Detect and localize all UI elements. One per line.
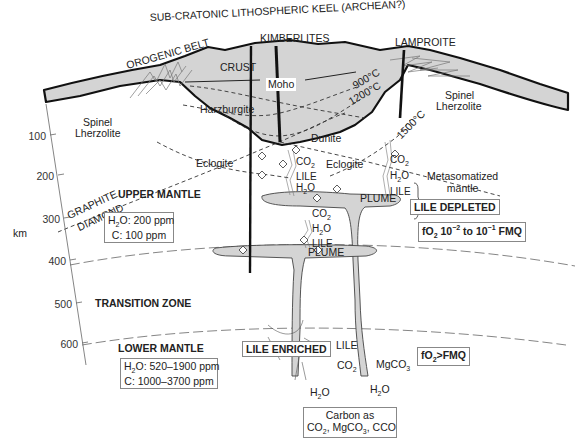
- fo2-upper-box: fO2 10−2 to 10−1 FMQ: [418, 222, 526, 242]
- depth-tick-200: 200: [26, 170, 54, 182]
- depth-axis-line: [46, 104, 86, 365]
- label-harzburgite: Harzburgite: [200, 104, 254, 115]
- depth-tick-100: 100: [18, 130, 46, 142]
- label-lower-mantle: LOWER MANTLE: [118, 343, 204, 354]
- label-crust: CRUST: [220, 62, 256, 73]
- depth-tick-400: 400: [38, 255, 66, 267]
- label-mgco3-lower: MgCO3: [376, 359, 410, 372]
- label-lherzolite-right: Lherzolite: [436, 101, 482, 112]
- label-h2o-right: H2O: [370, 384, 390, 397]
- label-kimberlites: KIMBERLITES: [260, 33, 329, 44]
- label-moho: Moho: [266, 78, 296, 91]
- label-co2-lower: CO2: [337, 360, 357, 373]
- depth-axis-unit: km: [13, 228, 27, 239]
- label-upper-mantle: UPPER MANTLE: [118, 189, 201, 200]
- fluid-stack-middle: CO2 H2O LILE: [312, 208, 333, 249]
- label-eclogite-right: Eclogite: [326, 159, 363, 170]
- carbon-forms-box: Carbon as CO2, MgCO3, CCO: [303, 407, 397, 438]
- lower-mantle-composition-box: H2O: 520–1900 ppm C: 1000–3700 ppm: [120, 358, 218, 389]
- label-dunite: Dunite: [311, 133, 341, 144]
- label-lile-lower: LILE: [336, 340, 358, 351]
- fluid-stack-left: CO2 LILE H2O: [296, 156, 317, 197]
- fo2-lower-box: fO2>FMQ: [417, 347, 470, 366]
- depth-tick-600: 600: [50, 338, 78, 350]
- kimberlite-dike-1: [250, 46, 251, 273]
- label-transition-zone: TRANSITION ZONE: [95, 298, 191, 309]
- label-plume-lower: PLUME: [308, 247, 344, 258]
- label-spinel-right: Spinel: [445, 90, 474, 101]
- label-lherzolite-left: Lherzolite: [75, 128, 121, 139]
- label-h2o-left: H2O: [310, 387, 330, 400]
- label-spinel-left: Spinel: [83, 117, 112, 128]
- depth-tick-500: 500: [44, 298, 72, 310]
- lile-enriched-box: LILE ENRICHED: [242, 341, 331, 357]
- lile-depleted-box: LILE DEPLETED: [410, 199, 500, 215]
- label-lamproite: LAMPROITE: [395, 37, 456, 48]
- lithosphere-keel: [44, 40, 568, 145]
- label-metasomatized-mantle: Metasomatized mantle: [427, 170, 498, 194]
- label-eclogite-left: Eclogite: [196, 158, 233, 169]
- upper-mantle-composition-box: H2O: 200 ppm C: 100 ppm: [104, 212, 174, 243]
- label-plume-upper: PLUME: [360, 193, 396, 204]
- depth-tick-300: 300: [32, 213, 60, 225]
